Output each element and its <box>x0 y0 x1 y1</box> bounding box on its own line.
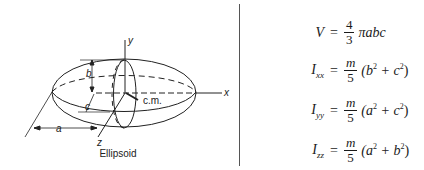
eq-rhs: (b2 + c2) <box>361 62 408 79</box>
diagram-caption: Ellipsoid <box>88 148 148 159</box>
fraction: m5 <box>344 136 357 165</box>
equation-izz: Izz = m5 (a2 + b2) <box>280 136 420 165</box>
column-divider <box>239 4 240 166</box>
eq-lhs: V <box>315 25 324 40</box>
x-axis-label: x <box>223 87 230 98</box>
b-label: b <box>86 68 92 79</box>
a-label: a <box>56 123 62 134</box>
equator-back-dashed <box>52 76 196 93</box>
z-axis <box>98 93 125 137</box>
equation-iyy: Iyy = m5 (a2 + c2) <box>280 96 420 125</box>
equation-ixx: Ixx = m5 (b2 + c2) <box>280 56 420 85</box>
equals-sign: = <box>330 25 338 41</box>
equals-sign: = <box>330 63 338 79</box>
eq-rhs: πabc <box>358 25 385 41</box>
ellipsoid-diagram: y x z b c a c.m. Ellipsoid <box>0 0 240 170</box>
eq-rhs: (a2 + b2) <box>361 142 409 159</box>
c-label: c <box>85 101 90 112</box>
fraction: 43 <box>344 18 355 47</box>
fraction: m5 <box>344 96 357 125</box>
eq-rhs: (a2 + c2) <box>361 102 408 119</box>
ellipsoid-drawing: y x z b c a c.m. <box>0 0 240 170</box>
y-axis-label: y <box>127 35 134 46</box>
equation-volume: V = 43 πabc <box>280 18 420 47</box>
equals-sign: = <box>330 103 338 119</box>
equals-sign: = <box>330 143 338 159</box>
cross-section-left <box>114 60 125 128</box>
center-of-mass-label: c.m. <box>143 95 162 106</box>
z-axis-label: z <box>96 137 102 148</box>
fraction: m5 <box>344 56 357 85</box>
